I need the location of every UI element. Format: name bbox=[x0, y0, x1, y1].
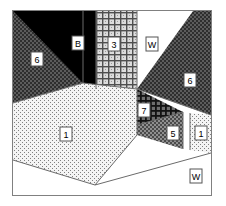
region-label-floor-1: 1 bbox=[63, 130, 68, 140]
region-label-white-panel-W-top: W bbox=[148, 40, 157, 50]
region-label-white-panel-W-bottom: W bbox=[192, 172, 201, 182]
region-label-back-wall-strip-3: 3 bbox=[111, 40, 116, 50]
region-label-ceiling-black-B: B bbox=[75, 39, 81, 49]
segmentation-figure: 6B3W67511W bbox=[0, 0, 226, 206]
region-label-right-strip-1: 1 bbox=[198, 129, 203, 139]
region-label-dark-crosshatch-7: 7 bbox=[141, 106, 146, 116]
scene-canvas: 6B3W67511W bbox=[0, 0, 226, 206]
region-label-right-wall-6: 6 bbox=[187, 76, 192, 86]
region-label-left-wall-6: 6 bbox=[34, 55, 39, 65]
region-label-mid-gray-5: 5 bbox=[170, 129, 175, 139]
